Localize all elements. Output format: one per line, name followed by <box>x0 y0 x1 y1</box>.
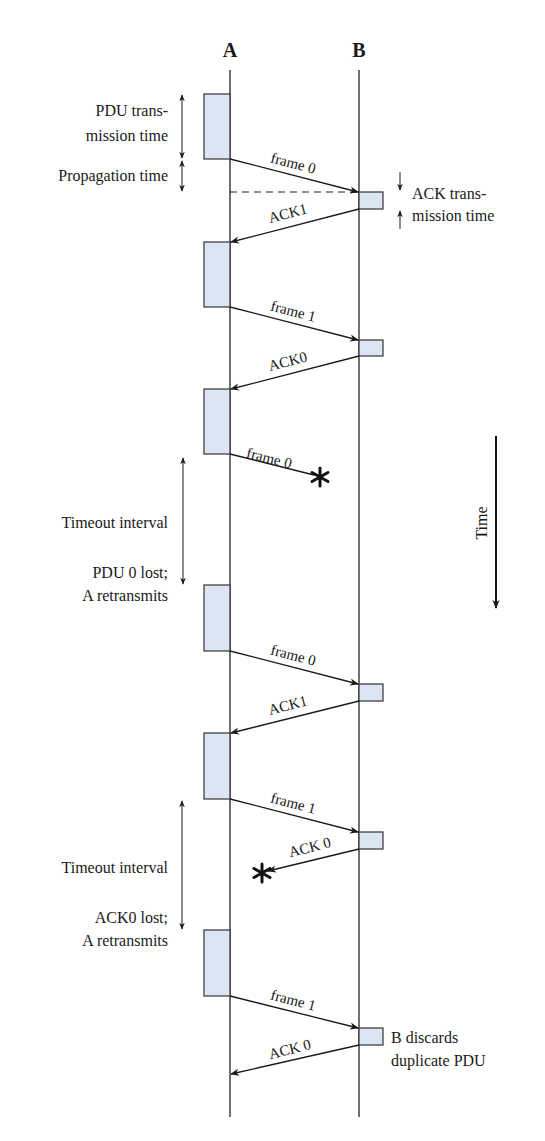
a-tx-box-6 <box>204 930 230 996</box>
msg-label: frame 0 <box>269 642 318 669</box>
a-tx-box-2 <box>204 242 230 307</box>
msg-label: frame 1 <box>269 987 318 1014</box>
discard-label-1: B discards <box>391 1029 458 1046</box>
lost-1-label-1: PDU 0 lost; <box>92 564 168 581</box>
b-ack-box-2 <box>359 340 383 356</box>
b-ack-box-4 <box>359 832 383 849</box>
ack-tx-label-1: ACK trans- <box>412 185 486 202</box>
lost-2-label-1: ACK0 lost; <box>95 909 168 926</box>
msg-label: frame 1 <box>269 790 318 817</box>
pdu-tx-label-2: mission time <box>86 127 168 144</box>
msg-label: ACK 0 <box>287 834 333 860</box>
lost-star-icon <box>254 864 270 882</box>
lost-star-icon <box>312 468 328 486</box>
pdu-tx-label-1: PDU trans- <box>96 102 168 119</box>
msg-label: frame 0 <box>245 445 294 472</box>
a-tx-box-5 <box>204 733 230 799</box>
discard-label-2: duplicate PDU <box>391 1052 486 1070</box>
msg-label: frame 1 <box>269 298 318 325</box>
timeout-1-label: Timeout interval <box>61 514 168 531</box>
a-tx-box-1 <box>204 94 230 159</box>
msg-label: ACK1 <box>267 693 309 718</box>
b-ack-box-3 <box>359 684 383 701</box>
msg-label: ACK 0 <box>267 1036 313 1062</box>
arq-timing-diagram: A B frame 0 ACK1 frame 1 ACK0 frame 0 fr… <box>0 0 545 1141</box>
b-ack-box-5 <box>359 1028 383 1045</box>
msg-label: frame 0 <box>269 150 318 177</box>
a-tx-box-4 <box>204 585 230 651</box>
station-b-label: B <box>352 39 365 61</box>
propagation-label: Propagation time <box>58 167 168 185</box>
lost-1-label-2: A retransmits <box>82 587 168 604</box>
a-tx-box-3 <box>204 389 230 454</box>
b-ack-box-1 <box>359 192 383 209</box>
msg-label: ACK1 <box>267 201 309 226</box>
timeout-2-label: Timeout interval <box>61 859 168 876</box>
ack-tx-label-2: mission time <box>412 207 494 224</box>
lost-2-label-2: A retransmits <box>82 932 168 949</box>
time-axis-label: Time <box>473 506 490 539</box>
station-a-label: A <box>223 39 238 61</box>
